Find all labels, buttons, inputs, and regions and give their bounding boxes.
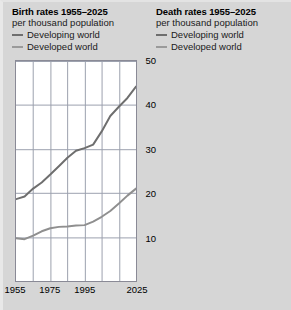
x-axis-tick-label: 1995 — [74, 285, 95, 295]
plot-area-birth — [15, 60, 137, 282]
series-line-developed-world — [16, 189, 136, 240]
legend-label-developed-death: Developed world — [171, 41, 242, 53]
x-axis-tick-label: 2025 — [126, 285, 147, 295]
x-axis-labels-birth: 1955197519952025 — [3, 285, 149, 299]
x-axis-tick-label: 1975 — [39, 285, 60, 295]
legend-swatch-developed-icon — [156, 46, 167, 48]
x-axis-tick-label: 1955 — [4, 285, 25, 295]
panel-header-birth: Birth rates 1955–2025 per thousand popul… — [3, 6, 149, 53]
series-line-developing-world — [16, 87, 136, 200]
panel-subtitle-birth: per thousand population — [12, 17, 149, 29]
panel-title-birth: Birth rates 1955–2025 — [12, 6, 149, 17]
legend-birth: Developing world Developed world — [12, 29, 149, 53]
legend-death: Developing world Developed world — [156, 29, 291, 53]
legend-swatch-developing-icon — [12, 34, 23, 36]
panel-title-death: Death rates 1955–2025 — [156, 6, 291, 17]
panel-death-rates: Death rates 1955–2025 per thousand popul… — [148, 2, 291, 310]
legend-item-developed-death: Developed world — [156, 41, 291, 53]
gridlines-birth — [16, 61, 136, 281]
panel-header-death: Death rates 1955–2025 per thousand popul… — [148, 6, 291, 53]
legend-item-developing-birth: Developing world — [12, 29, 149, 41]
legend-label-developing-birth: Developing world — [27, 29, 100, 41]
panel-subtitle-death: per thousand population — [156, 17, 291, 29]
legend-label-developing-death: Developing world — [171, 29, 244, 41]
legend-item-developing-death: Developing world — [156, 29, 291, 41]
legend-item-developed-birth: Developed world — [12, 41, 149, 53]
legend-label-developed-birth: Developed world — [27, 41, 98, 53]
panel-birth-rates: Birth rates 1955–2025 per thousand popul… — [3, 2, 149, 310]
legend-swatch-developing-icon — [156, 34, 167, 36]
series-lines-birth — [16, 87, 136, 240]
plot-svg-birth — [16, 61, 136, 281]
legend-swatch-developed-icon — [12, 46, 23, 48]
chart-figure: Birth rates 1955–2025 per thousand popul… — [0, 0, 291, 310]
